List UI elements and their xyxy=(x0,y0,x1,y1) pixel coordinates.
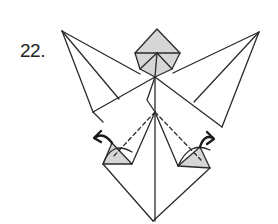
center-crease xyxy=(147,77,155,221)
right-shaded-triangle xyxy=(178,147,210,168)
origami-diagram xyxy=(0,0,278,224)
left-curved-arrow-icon xyxy=(94,131,112,143)
right-curved-arrow-icon xyxy=(200,132,214,147)
left-shaded-triangle xyxy=(103,143,132,164)
left-wing-flap xyxy=(62,31,155,122)
top-shaded-square xyxy=(135,29,180,77)
